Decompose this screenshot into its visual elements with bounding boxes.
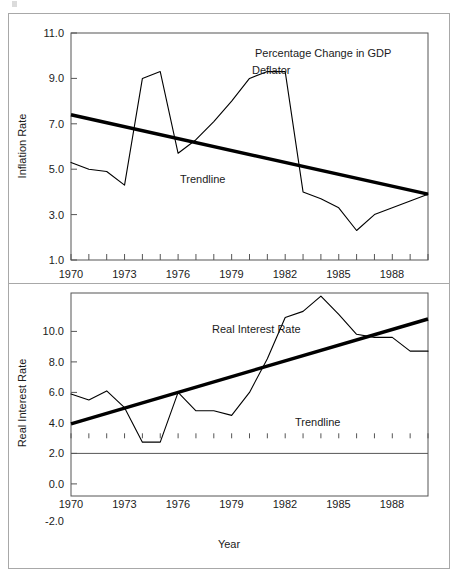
- real-interest-ytick-label-3: 4.0: [49, 417, 64, 429]
- real-interest-xtick-label-0: 1970: [59, 498, 83, 510]
- inflation-chart-panel: 11.0 9.0 7.0 5.0 3.0 1.0 Inflation Rate …: [0, 13, 459, 283]
- real-interest-x-tick-labels: 1970 1973 1976 1979 1982 1985 1988: [59, 498, 404, 510]
- real-interest-ytick-label-1: 8.0: [49, 356, 64, 368]
- inflation-ytick-label-1: 9.0: [49, 72, 64, 84]
- inflation-xtick-label-5: 1985: [326, 268, 350, 280]
- real-interest-chart-svg: 10.0 8.0 6.0 4.0 2.0 0.0 -2.0 Real Inter…: [0, 283, 459, 569]
- real-interest-ytick-label-2: 6.0: [49, 386, 64, 398]
- inflation-xtick-label-6: 1988: [380, 268, 404, 280]
- real-interest-y-ticks: [71, 331, 77, 484]
- inflation-y-axis-title: Inflation Rate: [16, 114, 28, 179]
- inflation-chart-title-line1: Percentage Change in GDP: [255, 47, 391, 59]
- real-interest-chart-panel: 10.0 8.0 6.0 4.0 2.0 0.0 -2.0 Real Inter…: [0, 283, 459, 569]
- real-interest-xtick-label-2: 1976: [166, 498, 190, 510]
- inflation-xtick-label-2: 1976: [166, 268, 190, 280]
- real-interest-y-tick-labels: 10.0 8.0 6.0 4.0 2.0 0.0 -2.0: [43, 325, 64, 527]
- inflation-xtick-label-4: 1982: [273, 268, 297, 280]
- inflation-x-ticks: [71, 254, 428, 260]
- page-artifact-speck: [12, 1, 17, 7]
- inflation-x-tick-labels: 1970 1973 1976 1979 1982 1985 1988: [59, 268, 404, 280]
- inflation-xtick-label-3: 1979: [219, 268, 243, 280]
- real-interest-xtick-label-5: 1985: [326, 498, 350, 510]
- real-interest-ytick-label-4: 2.0: [49, 447, 64, 459]
- inflation-chart-title-line2: Deflator: [252, 64, 291, 76]
- inflation-data-line: [71, 72, 428, 231]
- inflation-y-ticks: [71, 33, 77, 260]
- real-interest-series-label: Real Interest Rate: [212, 323, 301, 335]
- real-interest-xtick-label-3: 1979: [219, 498, 243, 510]
- real-interest-xtick-label-6: 1988: [380, 498, 404, 510]
- inflation-plot-frame: [71, 33, 428, 260]
- inflation-ytick-label-3: 5.0: [49, 163, 64, 175]
- real-interest-trendline-label: Trendline: [295, 416, 340, 428]
- real-interest-data-line: [71, 296, 428, 442]
- real-interest-ytick-label-0: 10.0: [43, 325, 64, 337]
- inflation-ytick-label-5: 1.0: [49, 254, 64, 266]
- real-interest-reference-ticks: [71, 433, 428, 438]
- inflation-xtick-label-1: 1973: [112, 268, 136, 280]
- figure-page: 11.0 9.0 7.0 5.0 3.0 1.0 Inflation Rate …: [0, 0, 459, 581]
- inflation-ytick-label-2: 7.0: [49, 118, 64, 130]
- inflation-trendline-label: Trendline: [180, 173, 225, 185]
- inflation-y-tick-labels: 11.0 9.0 7.0 5.0 3.0 1.0: [43, 27, 64, 266]
- real-interest-ytick-label-5: 0.0: [49, 478, 64, 490]
- real-interest-x-axis-title: Year: [218, 538, 241, 550]
- inflation-xtick-label-0: 1970: [59, 268, 83, 280]
- real-interest-xtick-label-4: 1982: [273, 498, 297, 510]
- real-interest-y-axis-title: Real Interest Rate: [16, 359, 28, 448]
- inflation-ytick-label-0: 11.0: [43, 27, 64, 39]
- inflation-chart-svg: 11.0 9.0 7.0 5.0 3.0 1.0 Inflation Rate …: [0, 13, 459, 283]
- inflation-plot-rect: [71, 33, 428, 260]
- real-interest-xtick-label-1: 1973: [112, 498, 136, 510]
- real-interest-ytick-label-6: -2.0: [45, 515, 64, 527]
- inflation-ytick-label-4: 3.0: [49, 209, 64, 221]
